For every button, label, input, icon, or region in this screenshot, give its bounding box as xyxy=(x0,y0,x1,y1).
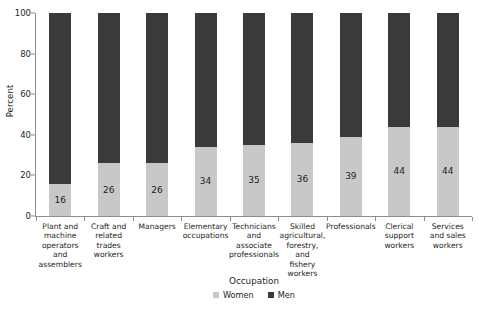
x-axis-tick-label-line: Elementary xyxy=(179,222,231,231)
x-axis-tick-label: Skilledagricultural,forestry,andfisheryw… xyxy=(276,222,328,278)
bar-value-label: 34 xyxy=(195,177,217,186)
bar-value-label: 26 xyxy=(146,186,168,195)
bar-segment-women: 35 xyxy=(243,145,265,216)
bar-segment-men xyxy=(437,13,459,127)
x-axis-tick-label-line: assemblers xyxy=(34,260,86,269)
x-axis-tick-label-line: support xyxy=(373,231,425,240)
legend-item[interactable]: Men xyxy=(268,291,295,299)
y-axis-tick-label: 40 xyxy=(5,131,31,140)
bar-segment-women: 44 xyxy=(388,127,410,216)
x-axis-tick-label-line: agricultural, xyxy=(276,231,328,240)
legend-label: Men xyxy=(278,291,295,299)
bar-group: 44 xyxy=(375,13,423,216)
y-axis-tick-label: 60 xyxy=(5,90,31,99)
x-axis-tick-label-line: Skilled xyxy=(276,222,328,231)
stacked-bar: 39 xyxy=(340,13,362,216)
x-axis-tick-label-line: workers xyxy=(373,241,425,250)
bar-value-label: 44 xyxy=(388,167,410,176)
x-axis-tick-label-line: Craft and xyxy=(82,222,134,231)
y-axis-tick-label: 100 xyxy=(5,9,31,18)
bar-group: 36 xyxy=(278,13,326,216)
bar-segment-men xyxy=(388,13,410,127)
stacked-bar-chart: Percent 020406080100 162626343536394444 … xyxy=(0,0,479,312)
stacked-bar: 36 xyxy=(291,13,313,216)
x-axis-tick-mark xyxy=(327,217,328,221)
x-axis-title: Occupation xyxy=(36,276,472,286)
x-axis-tick-label: Elementaryoccupations xyxy=(179,222,231,241)
x-axis-tick-label-line: professionals xyxy=(228,250,280,259)
stacked-bar: 44 xyxy=(388,13,410,216)
x-axis-tick-mark xyxy=(36,217,37,221)
bar-segment-women: 26 xyxy=(98,163,120,216)
chart-legend: WomenMen xyxy=(36,291,472,299)
y-axis-tick-label: 20 xyxy=(5,171,31,180)
x-axis-tick-label-line: operators xyxy=(34,241,86,250)
stacked-bar: 16 xyxy=(49,13,71,216)
stacked-bar: 26 xyxy=(98,13,120,216)
x-axis-tick-label-line: and xyxy=(276,250,328,259)
legend-swatch-icon xyxy=(268,292,274,298)
x-axis-tick-mark xyxy=(375,217,376,221)
bar-segment-women: 26 xyxy=(146,163,168,216)
bar-value-label: 36 xyxy=(291,175,313,184)
legend-item[interactable]: Women xyxy=(213,291,254,299)
bar-group: 26 xyxy=(84,13,132,216)
bar-segment-men xyxy=(49,13,71,184)
x-axis-line xyxy=(35,216,472,217)
x-axis-tick-mark xyxy=(472,217,473,221)
y-axis-tick-label: 0 xyxy=(5,212,31,221)
x-axis-tick-label: Plant andmachineoperatorsandassemblers xyxy=(34,222,86,269)
x-axis-tick-label-line: Clerical xyxy=(373,222,425,231)
x-axis-tick-label-line: Plant and xyxy=(34,222,86,231)
bar-group: 34 xyxy=(181,13,229,216)
y-axis-tick-label: 80 xyxy=(5,49,31,58)
x-axis-tick-label-line: Technicians xyxy=(228,222,280,231)
x-axis-tick-mark xyxy=(133,217,134,221)
x-axis-tick-label: Professionals xyxy=(325,222,377,231)
bar-segment-men xyxy=(146,13,168,163)
y-axis-tick-mark xyxy=(31,13,35,14)
bar-segment-men xyxy=(340,13,362,137)
x-axis-tick-label-line: trades xyxy=(82,241,134,250)
x-axis-tick-label-line: Managers xyxy=(131,222,183,231)
y-axis-tick-mark xyxy=(31,53,35,54)
x-axis-tick-label-line: Services xyxy=(422,222,474,231)
bar-segment-men xyxy=(243,13,265,145)
stacked-bar: 34 xyxy=(195,13,217,216)
y-axis-tick-mark xyxy=(31,134,35,135)
stacked-bar: 35 xyxy=(243,13,265,216)
x-axis-tick-label-line: and sales xyxy=(422,231,474,240)
y-axis-tick-mark xyxy=(31,216,35,217)
bar-segment-women: 34 xyxy=(195,147,217,216)
x-axis-tick-label-line: workers xyxy=(422,241,474,250)
bar-group: 26 xyxy=(133,13,181,216)
bar-value-label: 16 xyxy=(49,196,71,205)
x-axis-tick-label: Managers xyxy=(131,222,183,231)
plot-area: 162626343536394444 xyxy=(36,13,472,216)
stacked-bar: 26 xyxy=(146,13,168,216)
bar-group: 35 xyxy=(230,13,278,216)
x-axis-tick-label-line: and xyxy=(228,231,280,240)
x-axis-tick-label-line: occupations xyxy=(179,231,231,240)
bar-group: 44 xyxy=(424,13,472,216)
x-axis-tick-mark xyxy=(181,217,182,221)
x-axis-tick-label-line: associate xyxy=(228,241,280,250)
x-axis-tick-label-line: and xyxy=(34,250,86,259)
x-axis-tick-label: Craft andrelatedtradesworkers xyxy=(82,222,134,260)
x-axis-tick-label: Servicesand salesworkers xyxy=(422,222,474,250)
x-axis-tick-label-line: forestry, xyxy=(276,241,328,250)
bar-segment-women: 39 xyxy=(340,137,362,216)
bar-segment-men xyxy=(98,13,120,163)
bar-segment-men xyxy=(195,13,217,147)
bar-group: 39 xyxy=(327,13,375,216)
legend-swatch-icon xyxy=(213,292,219,298)
y-axis-tick-mark xyxy=(31,94,35,95)
bar-value-label: 39 xyxy=(340,172,362,181)
x-axis-tick-label-line: machine xyxy=(34,231,86,240)
x-axis-tick-labels: Plant andmachineoperatorsandassemblersCr… xyxy=(36,222,472,274)
x-axis-tick-mark xyxy=(230,217,231,221)
x-axis-tick-mark xyxy=(84,217,85,221)
bar-segment-women: 16 xyxy=(49,184,71,216)
x-axis-tick-label-line: Professionals xyxy=(325,222,377,231)
x-axis-tick-mark xyxy=(278,217,279,221)
